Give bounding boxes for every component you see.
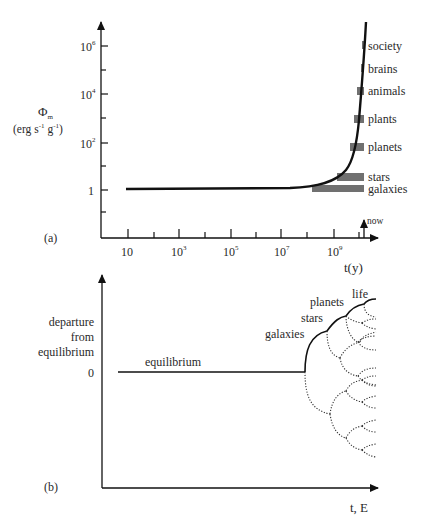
bar-planets xyxy=(350,143,364,151)
panel-a-tag: (a) xyxy=(44,231,57,245)
now-label: now xyxy=(367,216,384,226)
label-planets: planets xyxy=(368,140,402,154)
branch-label-life: life xyxy=(352,287,368,301)
label-animals: animals xyxy=(368,84,406,98)
y-tick-1e6: 106 xyxy=(80,39,96,54)
branch-label-planets: planets xyxy=(310,295,344,309)
label-galaxies: galaxies xyxy=(368,182,408,196)
panel-b-tag: (b) xyxy=(44,480,58,494)
panel-a-y-ticks xyxy=(101,46,108,212)
label-plants: plants xyxy=(368,112,397,126)
y-tick-1e2: 102 xyxy=(80,136,96,151)
x-tick-1e9: 109 xyxy=(327,244,343,259)
figure: 106 104 102 1 Φm (erg s-1 g-1) 10 103 10… xyxy=(0,0,424,518)
y-tick-1e4: 104 xyxy=(80,87,96,102)
panel-b-ylabel-2: from xyxy=(71,330,95,344)
x-tick-10: 10 xyxy=(121,245,133,259)
branch-label-galaxies: galaxies xyxy=(265,327,305,341)
panel-b-zero: 0 xyxy=(88,366,94,380)
panel-b-ylabel-1: departure xyxy=(49,315,94,329)
x-tick-1e7: 107 xyxy=(274,244,290,259)
panel-a-xlabel: t(y) xyxy=(344,260,363,275)
phi-curve xyxy=(126,22,366,189)
panel-b-ylabel-3: equilibrium xyxy=(38,345,95,359)
x-tick-1e5: 105 xyxy=(223,244,239,259)
panel-a-ylabel-units: (erg s-1 g-1) xyxy=(13,122,63,136)
bar-galaxies xyxy=(312,185,364,192)
panel-a: 106 104 102 1 Φm (erg s-1 g-1) 10 103 10… xyxy=(13,22,408,275)
panel-b-xlabel: t, E xyxy=(350,500,368,515)
epoch-bars xyxy=(312,41,364,192)
dotted-branches xyxy=(305,304,376,457)
panel-a-x-ticks xyxy=(128,229,359,238)
x-tick-1e3: 103 xyxy=(171,244,187,259)
label-society: society xyxy=(368,39,402,53)
panel-a-ylabel-symbol: Φm xyxy=(38,104,54,121)
equilibrium-label: equilibrium xyxy=(145,355,202,369)
y-tick-1: 1 xyxy=(88,184,94,198)
label-brains: brains xyxy=(368,62,398,76)
panel-b: departure from equilibrium 0 (b) t, E eq… xyxy=(38,275,378,515)
branch-label-stars: stars xyxy=(301,311,323,325)
